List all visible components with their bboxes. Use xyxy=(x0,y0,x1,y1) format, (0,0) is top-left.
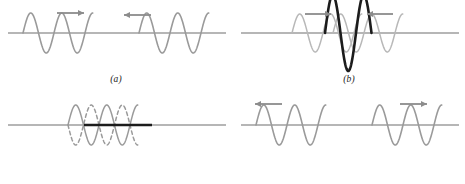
panel-b: (b) xyxy=(233,0,465,92)
panel-a-label: (a) xyxy=(0,74,232,84)
panel-d: (d) xyxy=(233,92,465,184)
resultant-wave xyxy=(325,0,372,71)
panel-a: (a) xyxy=(0,0,232,92)
panel-c-diagram xyxy=(0,92,232,184)
panel-c: (c) xyxy=(0,92,232,184)
panel-d-diagram xyxy=(233,92,465,184)
wave-interference-figure: (a) (b) (c) (d) xyxy=(0,0,465,184)
panel-b-label: (b) xyxy=(233,74,465,84)
arrow-right-icon xyxy=(400,101,427,107)
arrow-right-icon xyxy=(57,10,84,16)
arrow-left-icon xyxy=(367,11,393,17)
arrow-left-icon xyxy=(255,101,282,107)
